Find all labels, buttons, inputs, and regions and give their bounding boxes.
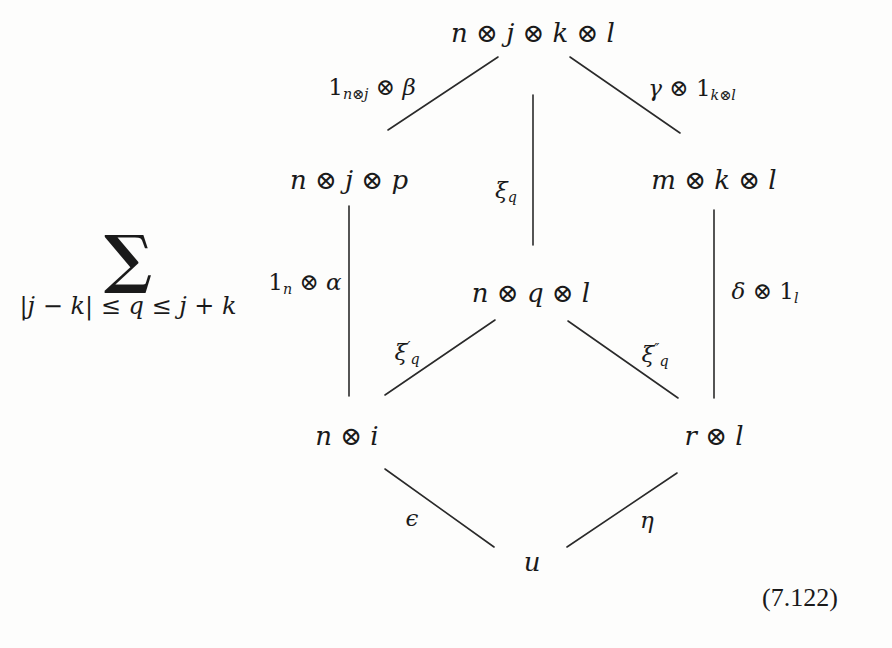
- summation-symbol: ∑: [20, 230, 237, 288]
- edge-label-upper-right-lower-right: δ ⊗ 1l: [732, 280, 799, 303]
- edge-label-top-center: ξq: [495, 179, 517, 202]
- edge-line-lower-right-bottom: [567, 473, 677, 547]
- node-center: n ⊗ q ⊗ l: [472, 280, 590, 306]
- node-top: n ⊗ j ⊗ k ⊗ l: [451, 20, 615, 46]
- summation: ∑ |j − k| ≤ q ≤ j + k: [20, 230, 237, 320]
- edge-label-center-lower-right: ξ″q: [641, 343, 668, 366]
- edge-label-lower-left-bottom: ϵ: [406, 507, 419, 530]
- summation-range: |j − k| ≤ q ≤ j + k: [20, 292, 237, 320]
- edge-label-center-lower-left: ξ′q: [394, 341, 419, 364]
- edge-label-lower-right-bottom: η: [640, 509, 654, 532]
- node-lower-right: r ⊗ l: [684, 423, 743, 449]
- node-upper-left: n ⊗ j ⊗ p: [290, 167, 408, 193]
- node-lower-left: n ⊗ i: [315, 423, 378, 449]
- edge-line-lower-left-bottom: [385, 469, 494, 547]
- edge-label-top-upper-left: 1n⊗j ⊗ β: [328, 76, 415, 99]
- node-upper-right: m ⊗ k ⊗ l: [651, 167, 776, 193]
- diagram-edges: [0, 0, 892, 648]
- equation-number: (7.122): [762, 583, 838, 613]
- edge-label-top-upper-right: γ ⊗ 1k⊗l: [648, 77, 735, 100]
- node-bottom: u: [524, 549, 541, 575]
- edge-label-upper-left-lower-left: 1n ⊗ α: [268, 271, 341, 294]
- commutative-diagram: ∑ |j − k| ≤ q ≤ j + k n ⊗ j ⊗ k ⊗ l n ⊗ …: [0, 0, 892, 648]
